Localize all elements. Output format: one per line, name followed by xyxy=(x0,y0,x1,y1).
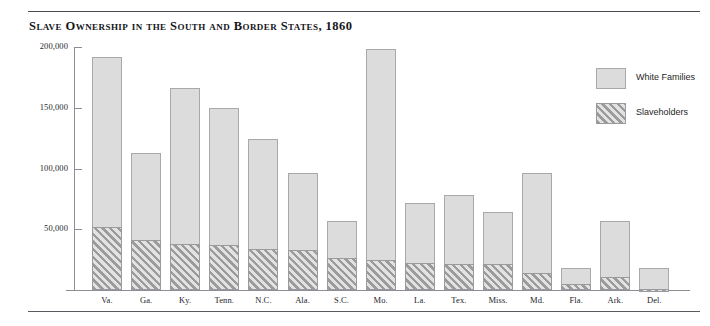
legend-label-white-families: White Families xyxy=(636,72,695,82)
bar-segment-white-families xyxy=(209,108,239,246)
bar-segment-white-families xyxy=(561,268,591,285)
bar-segment-white-families xyxy=(248,139,278,249)
bar-segment-slaveholders xyxy=(92,227,122,290)
x-axis-label: Fla. xyxy=(554,295,598,305)
bar-segment-slaveholders xyxy=(444,264,474,290)
x-axis-label: Mo. xyxy=(359,295,403,305)
bar-segment-slaveholders xyxy=(366,260,396,290)
x-axis-label: Ga. xyxy=(124,295,168,305)
bar-segment-slaveholders xyxy=(639,289,669,292)
bar-segment-white-families xyxy=(483,212,513,265)
bar-segment-slaveholders xyxy=(209,245,239,290)
bar-segment-white-families xyxy=(131,153,161,241)
x-axis-label: Ark. xyxy=(593,295,637,305)
x-axis-label: Del. xyxy=(632,295,676,305)
bar-segment-white-families xyxy=(288,173,318,251)
bar-segment-white-families xyxy=(444,195,474,265)
x-axis-label: Tenn. xyxy=(202,295,246,305)
legend-swatch-white-families-icon xyxy=(596,68,626,89)
x-axis-label: Md. xyxy=(515,295,559,305)
bar-segment-white-families xyxy=(639,268,669,290)
bar-segment-slaveholders xyxy=(405,263,435,290)
bars-container xyxy=(0,0,710,290)
bottom-rule xyxy=(28,311,700,312)
x-axis-label: Ala. xyxy=(281,295,325,305)
bar-segment-slaveholders xyxy=(248,249,278,290)
bar-segment-white-families xyxy=(327,221,357,260)
x-axis-label: Tex. xyxy=(437,295,481,305)
x-axis-label: S.C. xyxy=(320,295,364,305)
x-axis-label: Ky. xyxy=(163,295,207,305)
legend-label-slaveholders: Slaveholders xyxy=(636,107,688,117)
bar-segment-slaveholders xyxy=(170,244,200,290)
bar-segment-slaveholders xyxy=(561,284,591,290)
bar-segment-white-families xyxy=(170,88,200,245)
bar-segment-white-families xyxy=(405,203,435,265)
x-axis-label: La. xyxy=(398,295,442,305)
bar-segment-slaveholders xyxy=(327,258,357,290)
bar-segment-white-families xyxy=(92,57,122,228)
x-axis-label: N.C. xyxy=(241,295,285,305)
bar-segment-slaveholders xyxy=(600,277,630,290)
x-axis-line xyxy=(66,290,690,291)
plot-area: 50,000100,000150,000200,000 Va.Ga.Ky.Ten… xyxy=(0,0,710,326)
bar-segment-slaveholders xyxy=(522,273,552,290)
bar-segment-white-families xyxy=(366,49,396,260)
bar-segment-slaveholders xyxy=(288,250,318,290)
legend-swatch-slaveholders-icon xyxy=(596,103,626,124)
chart-figure: Slave Ownership in the South and Border … xyxy=(0,0,710,326)
bar-segment-white-families xyxy=(522,173,552,274)
bar-segment-white-families xyxy=(600,221,630,278)
x-axis-label: Va. xyxy=(85,295,129,305)
bar-segment-slaveholders xyxy=(131,240,161,290)
x-axis-label: Miss. xyxy=(476,295,520,305)
bar-segment-slaveholders xyxy=(483,264,513,290)
